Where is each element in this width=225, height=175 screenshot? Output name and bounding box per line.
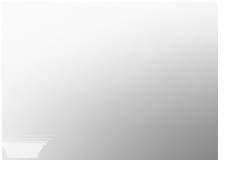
- perspective-star-plane: [2, 2, 218, 160]
- star-field-image: [2, 2, 218, 160]
- left-wash: [2, 2, 218, 160]
- screenshot-root: Star pattern plane in perspective five-p…: [0, 0, 225, 175]
